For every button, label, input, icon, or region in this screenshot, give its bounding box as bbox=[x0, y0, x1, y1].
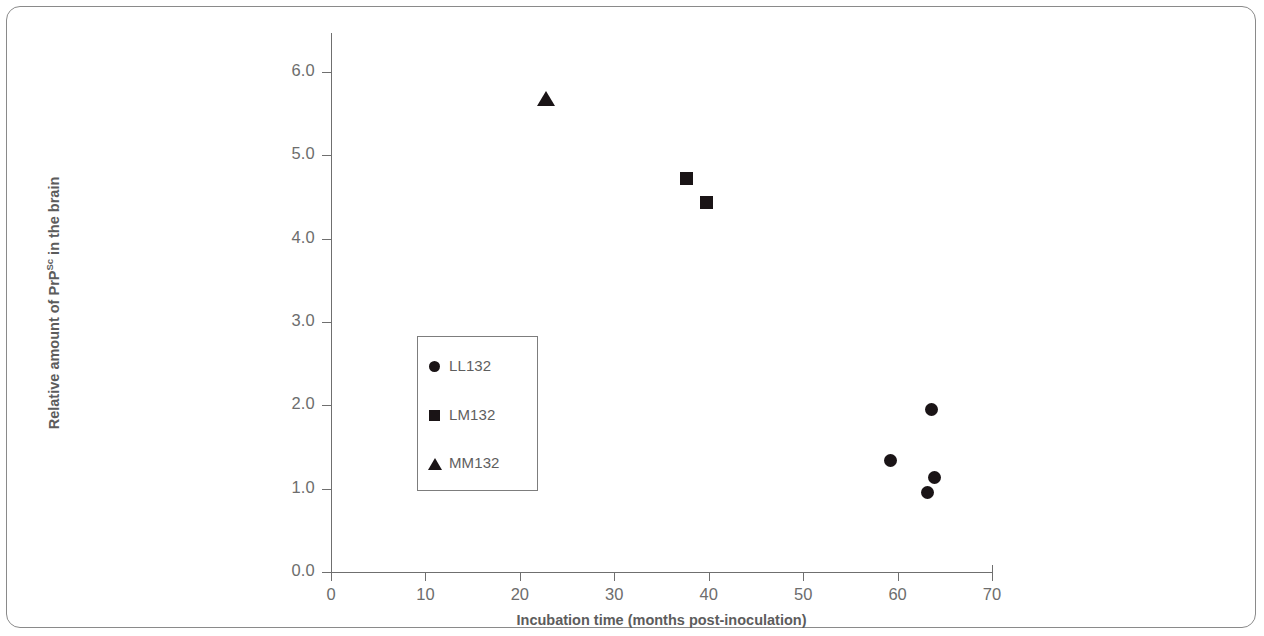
data-point-lm132 bbox=[680, 172, 693, 185]
y-axis-tick bbox=[322, 322, 331, 323]
x-axis-tick-label: 60 bbox=[868, 585, 928, 604]
x-axis-tick-label: 30 bbox=[584, 585, 644, 604]
legend-item-label: LL132 bbox=[449, 357, 491, 374]
data-point-mm132 bbox=[537, 91, 555, 106]
y-axis-tick bbox=[322, 239, 331, 240]
x-axis-title: Incubation time (months post-inoculation… bbox=[331, 612, 992, 628]
y-axis-tick-label-wrap: 1.0 bbox=[245, 478, 315, 498]
y-axis-tick bbox=[322, 572, 331, 573]
x-axis-tick bbox=[803, 572, 804, 581]
y-axis-tick-label: 6.0 bbox=[255, 61, 315, 80]
x-axis-tick-label: 10 bbox=[395, 585, 455, 604]
y-axis-tick-label: 3.0 bbox=[255, 311, 315, 330]
x-axis-tick bbox=[520, 572, 521, 581]
figure-canvas: 0.01.02.03.04.05.06.0 010203040506070 In… bbox=[0, 0, 1264, 636]
x-axis-tick bbox=[614, 572, 615, 581]
data-point-ll132 bbox=[925, 403, 938, 416]
x-axis-tick bbox=[709, 572, 710, 581]
legend-item-label: LM132 bbox=[449, 406, 495, 423]
legend-item-label: MM132 bbox=[449, 454, 500, 471]
y-axis-tick-label-wrap: 0.0 bbox=[245, 561, 315, 581]
x-axis-tick-label: 0 bbox=[301, 585, 361, 604]
circle-glyph bbox=[429, 361, 440, 372]
y-axis-title: Relative amount of PrPSc in the brain bbox=[46, 53, 62, 553]
triangle-glyph bbox=[428, 458, 442, 470]
y-axis-tick-label-wrap: 6.0 bbox=[245, 61, 315, 81]
x-axis-tick-label: 50 bbox=[773, 585, 833, 604]
x-axis-tick-label: 20 bbox=[490, 585, 550, 604]
y-axis-tick-label-wrap: 4.0 bbox=[245, 228, 315, 248]
circle-marker-icon bbox=[428, 359, 442, 373]
y-axis-tick-label-wrap: 3.0 bbox=[245, 311, 315, 331]
x-axis-tick bbox=[331, 572, 332, 581]
data-point-ll132 bbox=[884, 454, 897, 467]
data-point-ll132 bbox=[928, 471, 941, 484]
y-axis-tick bbox=[322, 405, 331, 406]
legend-item-lm132[interactable]: LM132 bbox=[428, 406, 495, 423]
y-axis-tick bbox=[322, 72, 331, 73]
y-axis-tick bbox=[322, 489, 331, 490]
y-axis-tick-label: 0.0 bbox=[255, 561, 315, 580]
square-glyph bbox=[429, 410, 440, 421]
x-axis-tick-label: 70 bbox=[962, 585, 1022, 604]
y-axis-title-superscript: Sc bbox=[44, 259, 55, 271]
square-marker-icon bbox=[428, 408, 442, 422]
y-axis-tick-label-wrap: 2.0 bbox=[245, 394, 315, 414]
x-axis-tick bbox=[898, 572, 899, 581]
x-axis-line bbox=[331, 572, 993, 573]
plot-area bbox=[331, 72, 992, 572]
legend-box: LL132LM132MM132 bbox=[417, 336, 538, 491]
triangle-marker-icon bbox=[428, 456, 442, 470]
y-axis-tick-label-wrap: 5.0 bbox=[245, 144, 315, 164]
data-point-lm132 bbox=[700, 196, 713, 209]
x-axis-tick-label: 40 bbox=[679, 585, 739, 604]
y-axis-tick-label: 1.0 bbox=[255, 478, 315, 497]
y-axis-title-base: Relative amount of PrP bbox=[46, 271, 62, 430]
y-axis-tick bbox=[322, 155, 331, 156]
x-axis-tick bbox=[425, 572, 426, 581]
legend-item-ll132[interactable]: LL132 bbox=[428, 357, 491, 374]
legend-item-mm132[interactable]: MM132 bbox=[428, 454, 500, 471]
y-axis-tick-label: 2.0 bbox=[255, 394, 315, 413]
y-axis-title-tail: in the brain bbox=[46, 177, 62, 259]
y-axis-tick-label: 5.0 bbox=[255, 144, 315, 163]
x-axis-tick bbox=[992, 572, 993, 581]
y-axis-tick-label: 4.0 bbox=[255, 228, 315, 247]
data-point-ll132 bbox=[921, 486, 934, 499]
